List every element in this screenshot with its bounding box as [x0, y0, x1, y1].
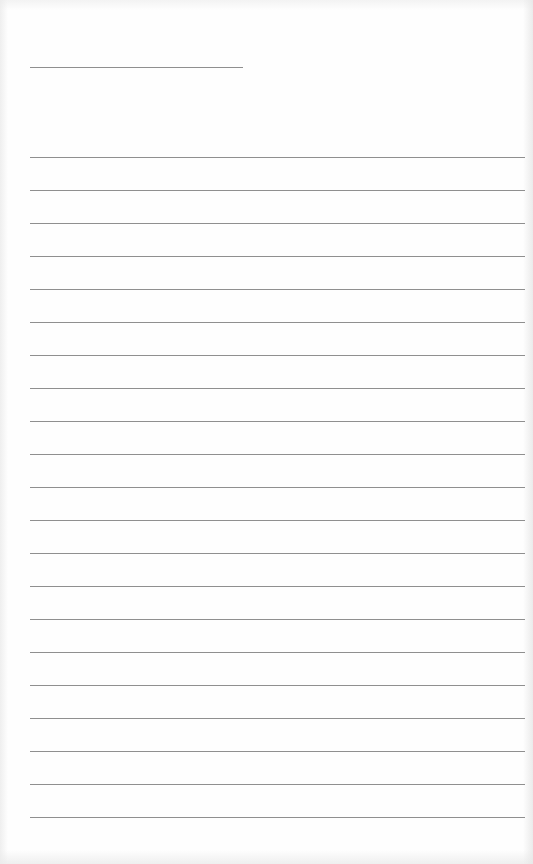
writing-line	[30, 355, 525, 356]
writing-line	[30, 652, 525, 653]
writing-line	[30, 784, 525, 785]
writing-line	[30, 685, 525, 686]
title-line	[30, 67, 243, 68]
writing-line	[30, 619, 525, 620]
lined-paper-page	[0, 0, 533, 864]
writing-line	[30, 322, 525, 323]
writing-line	[30, 553, 525, 554]
writing-line	[30, 421, 525, 422]
writing-line	[30, 190, 525, 191]
writing-line	[30, 520, 525, 521]
writing-line	[30, 223, 525, 224]
writing-line	[30, 586, 525, 587]
writing-line	[30, 454, 525, 455]
writing-line	[30, 718, 525, 719]
writing-line	[30, 487, 525, 488]
writing-line	[30, 751, 525, 752]
writing-line	[30, 289, 525, 290]
writing-line	[30, 256, 525, 257]
writing-line	[30, 817, 525, 818]
writing-line	[30, 157, 525, 158]
writing-line	[30, 388, 525, 389]
